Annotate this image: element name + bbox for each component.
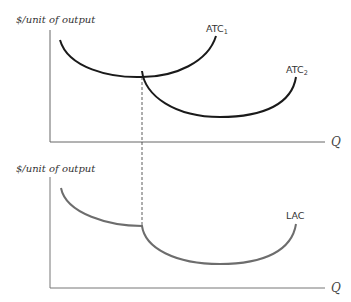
bottom-panel: $/unit of output Q LAC: [16, 163, 341, 295]
lac-curve: [61, 188, 296, 264]
bottom-x-axis-label: Q: [331, 281, 341, 295]
top-panel: $/unit of output Q ATC1 ATC2: [16, 14, 341, 149]
lac-label: LAC: [286, 210, 305, 221]
top-y-axis-label: $/unit of output: [16, 14, 96, 25]
top-x-axis-label: Q: [331, 135, 341, 149]
atc2-label: ATC2: [286, 64, 308, 77]
atc1-label: ATC1: [206, 23, 228, 36]
atc2-curve: [142, 71, 296, 117]
atc1-curve: [60, 36, 216, 77]
bottom-y-axis-label: $/unit of output: [16, 163, 96, 174]
cost-curves-figure: $/unit of output Q ATC1 ATC2 $/unit of o…: [0, 0, 351, 302]
